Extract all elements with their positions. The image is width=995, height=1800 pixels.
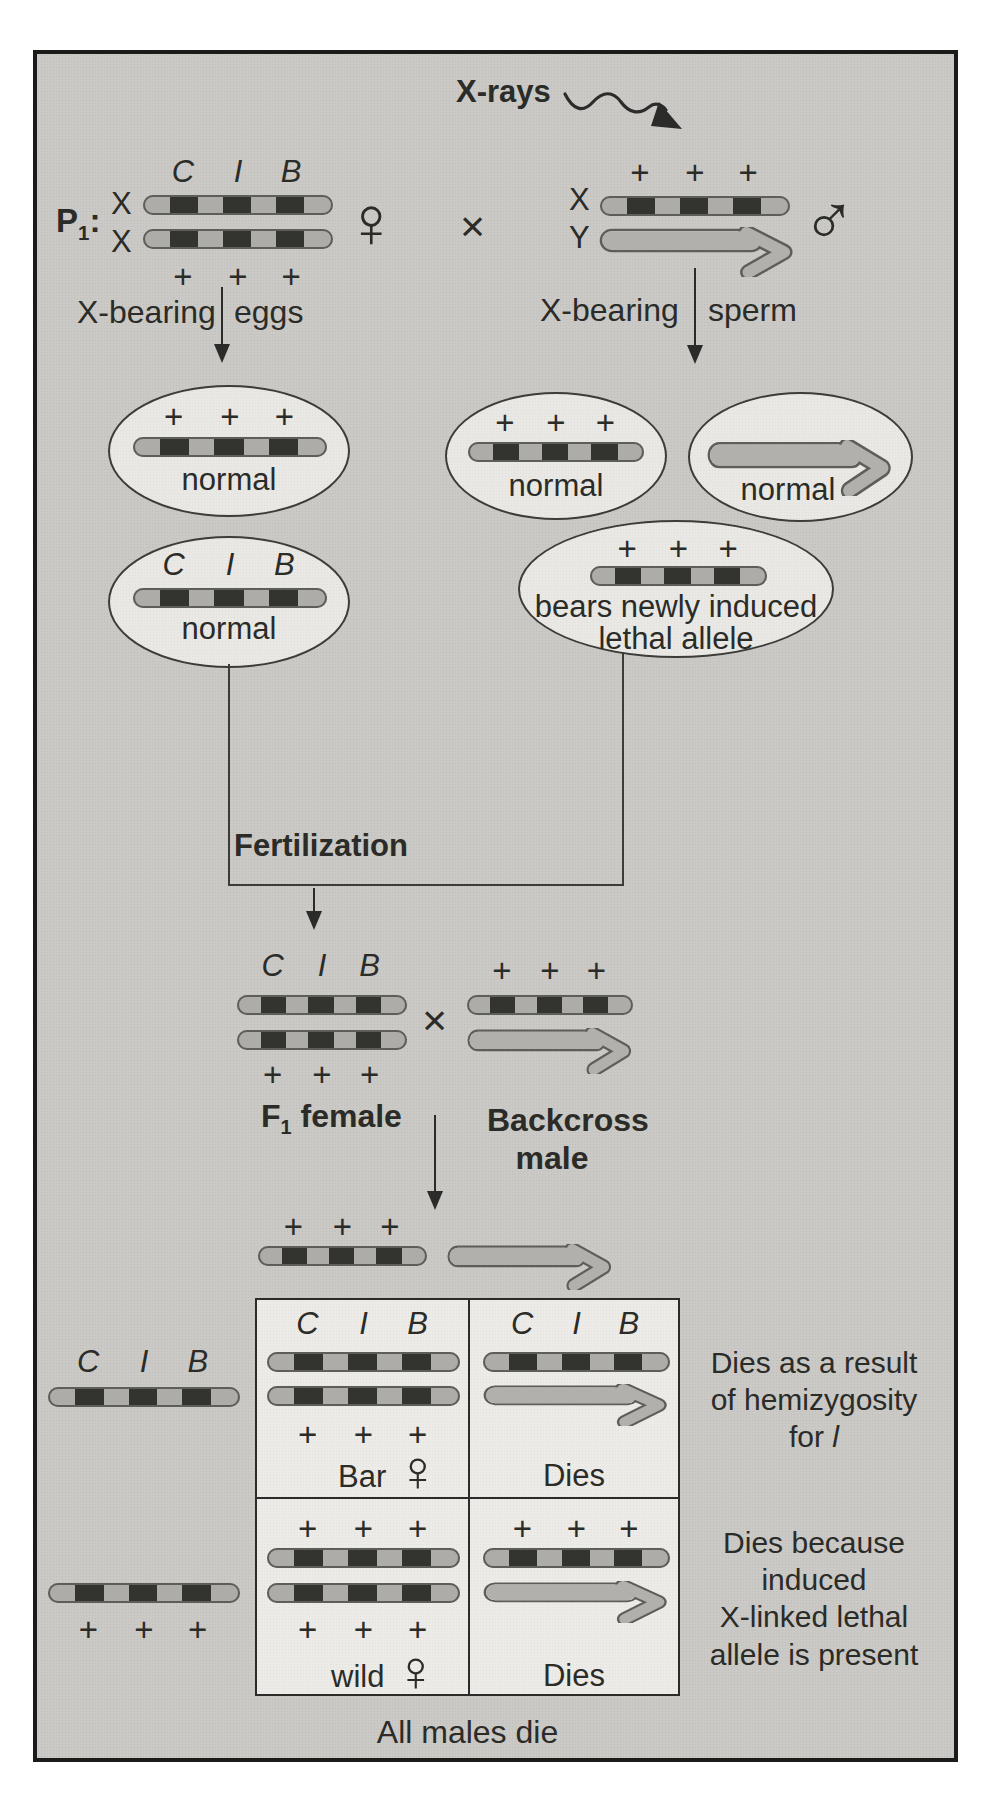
allele-plus: + [618, 532, 637, 565]
chromosome-x-bar [468, 442, 644, 462]
allele-plus: + [134, 1613, 153, 1646]
chromosome-y-arrow [482, 1581, 670, 1623]
chromosome-x-bar [133, 588, 327, 608]
note-lethal: Dies because induced X-linked lethal all… [694, 1524, 934, 1673]
chromosome-x-bar [467, 995, 633, 1015]
f1-gene-labels: CIB [237, 950, 407, 984]
chromosome-x-bar [590, 566, 767, 586]
female-allele-labels: +++ [143, 260, 333, 294]
gamete-x-allele-labels: +++ [258, 1210, 427, 1244]
note-word: for [789, 1420, 824, 1453]
allele-plus: + [275, 400, 294, 433]
clb-technique-diagram: X-rays P1: X X CIB +++ ♀ × X Y +++ ♂ X-b… [0, 0, 995, 1800]
gene-b: B [619, 1308, 640, 1339]
punnett-horizontal-divider [257, 1497, 678, 1499]
chromosome-x-bar [267, 1386, 460, 1406]
gene-c: C [172, 156, 194, 187]
cross-icon: × [422, 998, 447, 1043]
allele-plus: + [546, 406, 565, 439]
egg1-caption: normal [108, 464, 350, 497]
male-allele-labels: +++ [600, 156, 790, 190]
chromosome-y-arrow [446, 1244, 614, 1290]
allele-plus: + [380, 1210, 399, 1243]
gene-c: C [511, 1308, 533, 1339]
p1-colon: : [89, 202, 100, 239]
chromosome-y-arrow [482, 1384, 670, 1426]
gene-i: I [140, 1346, 149, 1377]
backcross-down-arrow [434, 1115, 436, 1192]
egg1-allele-labels: +++ [133, 400, 327, 434]
egg2-caption: normal [108, 613, 350, 646]
allele-plus: + [685, 156, 704, 189]
chromosome-x-bar [600, 196, 790, 216]
gene-b: B [407, 1308, 428, 1339]
chromosome-x-bar [237, 1030, 407, 1050]
gene-i: I [359, 1308, 368, 1339]
allele-plus: + [164, 400, 183, 433]
backcross-male-label-line2: male [487, 1142, 617, 1176]
r2c1-female-symbol: ♀ [394, 1642, 438, 1700]
gene-b: B [274, 549, 295, 580]
female-x2-label: X [111, 226, 132, 259]
allele-plus: + [173, 260, 192, 293]
allele-plus: + [408, 1512, 427, 1545]
allele-plus: + [540, 954, 559, 987]
all-males-die-label: All males die [255, 1716, 680, 1750]
female-gene-labels: CIB [143, 156, 333, 190]
gene-c: C [296, 1308, 318, 1339]
chromosome-x-bar [48, 1583, 240, 1603]
sperm3-caption-line2: lethal allele [518, 623, 834, 656]
egg-gamete2-allele-labels: +++ [48, 1613, 240, 1647]
r1c2-gene-labels: CIB [483, 1308, 670, 1342]
chromosome-x-bar [267, 1583, 460, 1603]
allele-plus: + [333, 1210, 352, 1243]
allele-plus: + [188, 1613, 207, 1646]
allele-plus: + [79, 1613, 98, 1646]
chromosome-y-arrow [598, 227, 796, 277]
egg2-gene-labels: CIB [133, 549, 327, 583]
allele-plus: + [298, 1418, 317, 1451]
allele-plus: + [718, 532, 737, 565]
connector-horizontal [228, 884, 624, 886]
p1-letter: P [56, 202, 78, 239]
gene-c: C [261, 950, 283, 981]
note-hemizygosity: Dies as a result of hemizygosity for l [694, 1344, 934, 1456]
allele-plus: + [282, 260, 301, 293]
backcross-male-label-line1: Backcross [487, 1104, 617, 1138]
allele-plus: + [596, 406, 615, 439]
xrays-label: X-rays [456, 76, 551, 109]
egg-cell-label: eggs [234, 296, 303, 330]
r1c1-female-symbol: ♀ [396, 1442, 440, 1500]
allele-plus: + [513, 1512, 532, 1545]
allele-plus: + [492, 954, 511, 987]
f1-female-word: female [300, 1098, 401, 1134]
f1-letter: F [261, 1098, 281, 1134]
allele-plus: + [298, 1512, 317, 1545]
allele-plus: + [739, 156, 758, 189]
connector-right-vertical [622, 652, 624, 886]
sperm-cell-label: sperm [708, 294, 797, 328]
note-line: induced [694, 1561, 934, 1598]
chromosome-x-bar [48, 1387, 240, 1407]
male-symbol: ♂ [802, 184, 856, 256]
chromosome-x-bar [267, 1548, 460, 1568]
p1-label: P1: [56, 204, 100, 243]
f1-allele-labels: +++ [237, 1058, 407, 1092]
r2c2-caption: Dies [468, 1660, 680, 1693]
allele-plus: + [228, 260, 247, 293]
chromosome-x-bar [143, 195, 333, 215]
allele-plus: + [587, 954, 606, 987]
allele-plus: + [284, 1210, 303, 1243]
chromosome-x-bar [237, 995, 407, 1015]
chromosome-x-bar [483, 1352, 670, 1372]
allele-plus: + [619, 1512, 638, 1545]
note-line: X-linked lethal [694, 1598, 934, 1635]
sperm-bearing-label: X-bearing [540, 294, 679, 328]
chromosome-x-bar [267, 1352, 460, 1372]
gene-i: I [572, 1308, 581, 1339]
allele-plus: + [298, 1613, 317, 1646]
r1c1-gene-labels: CIB [267, 1308, 460, 1342]
gene-c: C [163, 549, 185, 580]
sperm3-caption-line1: bears newly induced [518, 591, 834, 624]
male-x-label: X [569, 184, 590, 217]
